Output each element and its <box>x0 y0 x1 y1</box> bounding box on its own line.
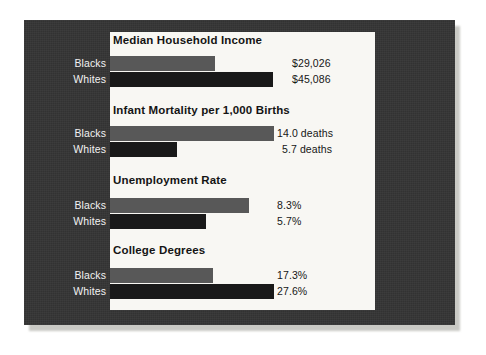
group-title: Median Household Income <box>113 34 262 46</box>
row-label-whites: Whites <box>73 285 106 297</box>
chart-row: Blacks $29,026 <box>24 56 455 71</box>
row-value-blacks: 14.0 deaths <box>277 127 333 139</box>
bar-blacks <box>110 56 215 71</box>
row-label-whites: Whites <box>73 215 106 227</box>
bar-blacks <box>110 268 213 283</box>
bar-whites <box>110 284 274 299</box>
row-label-blacks: Blacks <box>74 199 106 211</box>
chart-row: Whites $45,086 <box>24 72 455 87</box>
group-title: Unemployment Rate <box>113 174 227 186</box>
chart-row: Blacks 17.3% <box>24 268 455 283</box>
row-value-blacks: 8.3% <box>277 199 301 211</box>
bar-whites <box>110 72 273 87</box>
row-label-blacks: Blacks <box>74 127 106 139</box>
bar-whites <box>110 142 177 157</box>
row-value-whites: 5.7% <box>277 215 301 227</box>
bar-whites <box>110 214 206 229</box>
row-value-whites: $45,086 <box>292 73 331 85</box>
row-value-whites: 5.7 deaths <box>282 143 332 155</box>
comparison-bar-chart: Median Household Income Blacks $29,026 W… <box>24 20 455 325</box>
row-label-whites: Whites <box>73 73 106 85</box>
chart-card: Median Household Income Blacks $29,026 W… <box>24 20 455 325</box>
bar-blacks <box>110 126 274 141</box>
row-label-blacks: Blacks <box>74 269 106 281</box>
row-value-whites: 27.6% <box>277 285 307 297</box>
group-title: Infant Mortality per 1,000 Births <box>113 104 290 116</box>
chart-row: Whites 27.6% <box>24 284 455 299</box>
chart-row: Blacks 14.0 deaths <box>24 126 455 141</box>
group-title: College Degrees <box>113 244 205 256</box>
chart-row: Whites 5.7% <box>24 214 455 229</box>
bar-blacks <box>110 198 249 213</box>
figure-stage: Median Household Income Blacks $29,026 W… <box>0 0 486 355</box>
row-value-blacks: 17.3% <box>277 269 307 281</box>
row-label-whites: Whites <box>73 143 106 155</box>
row-value-blacks: $29,026 <box>292 57 331 69</box>
chart-row: Whites 5.7 deaths <box>24 142 455 157</box>
chart-row: Blacks 8.3% <box>24 198 455 213</box>
row-label-blacks: Blacks <box>74 57 106 69</box>
